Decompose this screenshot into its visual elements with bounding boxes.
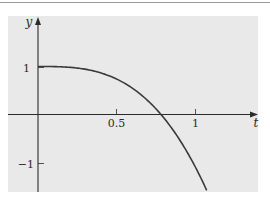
x-tick-label-1: 1 <box>192 117 199 130</box>
chart: 0.5 1 1 −1 t y <box>0 0 270 203</box>
y-axis-label: y <box>25 15 33 29</box>
x-tick-label-0.5: 0.5 <box>108 117 126 130</box>
top-rule-divider <box>0 2 270 3</box>
y-tick-label-1: 1 <box>23 62 30 75</box>
y-tick-label-neg1: −1 <box>18 158 34 171</box>
x-axis-label: t <box>254 116 259 130</box>
figure: 0.5 1 1 −1 t y <box>0 0 270 203</box>
plot-panel <box>8 16 258 192</box>
